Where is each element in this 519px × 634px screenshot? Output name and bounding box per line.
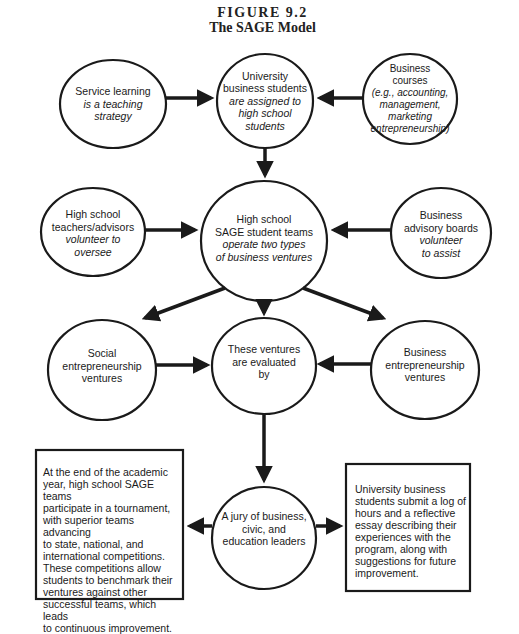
evaluated-node: These ventures are evaluated by — [214, 336, 314, 388]
university-students-sub-3: students — [245, 120, 285, 133]
business-courses-sub-2: management, — [379, 99, 440, 111]
tournament-line: participate in a tournament, — [43, 502, 183, 514]
tournament-line: to state, national, and — [43, 538, 183, 550]
sage-teams-main-1: High school — [237, 213, 292, 226]
business-courses-sub-3: marketing — [388, 111, 432, 123]
advisory-boards-main-2: advisory boards — [404, 222, 478, 235]
jury-line-3: education leaders — [223, 535, 306, 548]
log-line: suggestions for future — [355, 555, 471, 567]
tournament-line: At the end of the academic — [43, 466, 183, 478]
tournament-box-text: At the end of the academic year, high sc… — [43, 466, 183, 634]
evaluated-line-2: are evaluated — [232, 356, 296, 369]
university-students-main-1: University — [242, 70, 288, 83]
service-learning-node: Service learning is a teaching strategy — [63, 64, 163, 144]
sage-teams-sub-2: of business ventures — [216, 251, 312, 264]
business-courses-sub-4: entrepreneurship) — [371, 123, 450, 135]
tournament-line: with superior teams advancing — [43, 514, 183, 538]
arrow-sage-to-social — [145, 288, 225, 318]
social-ventures-line-2: entrepreneurship — [62, 360, 141, 373]
business-ventures-line-2: entrepreneurship — [385, 359, 464, 372]
hs-teachers-sub-1: volunteer to — [66, 233, 121, 246]
log-line: improvement. — [355, 567, 471, 579]
sage-teams-sub-1: operate two types — [223, 238, 306, 251]
tournament-line: international competitions. — [43, 550, 183, 562]
business-courses-node: Business courses (e.g., accounting, mana… — [362, 57, 458, 141]
service-learning-sub-2: strategy — [94, 110, 131, 123]
service-learning-main: Service learning — [75, 85, 150, 98]
advisory-boards-main-1: Business — [420, 209, 463, 222]
jury-node: A jury of business, civic, and education… — [209, 503, 319, 555]
university-students-node: University business students are assigne… — [215, 56, 315, 146]
sage-teams-node: High school SAGE student teams operate t… — [204, 200, 324, 276]
log-line: hours and a reflective — [355, 507, 471, 519]
business-ventures-line-1: Business — [404, 346, 447, 359]
hs-teachers-main-2: teachers/advisors — [52, 221, 134, 234]
advisory-boards-sub-2: to assist — [422, 247, 461, 260]
evaluated-line-1: These ventures — [228, 343, 300, 356]
sage-teams-main-2: SAGE student teams — [215, 226, 313, 239]
hs-teachers-node: High school teachers/advisors volunteer … — [43, 195, 143, 271]
university-students-main-2: business students — [223, 82, 307, 95]
log-line: experiences with the — [355, 531, 471, 543]
evaluated-line-3: by — [258, 368, 269, 381]
social-ventures-node: Social entrepreneurship ventures — [52, 340, 152, 392]
business-courses-sub-1: (e.g., accounting, — [372, 87, 449, 99]
business-ventures-line-3: ventures — [405, 371, 445, 384]
university-students-sub-1: are assigned to — [229, 95, 301, 108]
arrow-sage-to-business — [303, 288, 383, 318]
tournament-line: ventures against other — [43, 586, 183, 598]
jury-line-2: civic, and — [242, 523, 286, 536]
tournament-line: year, high school SAGE teams — [43, 478, 183, 502]
log-line: University business — [355, 483, 471, 495]
advisory-boards-sub-1: volunteer — [419, 234, 462, 247]
tournament-line: students to benchmark their — [43, 574, 183, 586]
social-ventures-line-3: ventures — [82, 372, 122, 385]
business-courses-main-1: Business — [390, 63, 431, 75]
log-line: program, along with — [355, 543, 471, 555]
hs-teachers-main-1: High school — [66, 208, 121, 221]
jury-line-1: A jury of business, — [221, 510, 306, 523]
business-ventures-node: Business entrepreneurship ventures — [375, 339, 475, 391]
business-courses-main-2: courses — [392, 75, 427, 87]
hs-teachers-sub-2: oversee — [74, 246, 111, 259]
log-line: essay describing their — [355, 519, 471, 531]
tournament-line: These competitions allow — [43, 562, 183, 574]
advisory-boards-node: Business advisory boards volunteer to as… — [391, 196, 491, 272]
tournament-line: to continuous improvement. — [43, 622, 183, 634]
service-learning-sub-1: is a teaching — [84, 98, 143, 111]
tournament-line: successful teams, which leads — [43, 598, 183, 622]
university-students-sub-2: high school — [238, 107, 291, 120]
social-ventures-line-1: Social — [88, 347, 117, 360]
log-box-text: University business students submit a lo… — [355, 483, 471, 579]
log-line: students submit a log of — [355, 495, 471, 507]
